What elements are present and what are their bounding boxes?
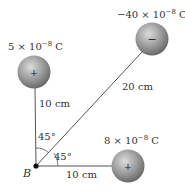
charge-label-q1: 5 × 10−8 C bbox=[8, 41, 63, 52]
diagram-canvas: + − + bbox=[0, 0, 185, 192]
point-b-dot bbox=[33, 163, 38, 168]
upper-angle-label: 45° bbox=[38, 132, 56, 142]
upper-angle-arc bbox=[36, 148, 49, 153]
plus-sign-icon: + bbox=[30, 67, 38, 78]
diagonal-line bbox=[36, 52, 142, 166]
horizontal-distance-label: 10 cm bbox=[66, 170, 97, 180]
point-b-label: B bbox=[23, 168, 31, 179]
charge-label-q2: −40 × 10−8 C bbox=[117, 9, 185, 20]
vertical-line bbox=[35, 88, 36, 166]
diagonal-distance-label: 20 cm bbox=[122, 82, 153, 92]
vertical-distance-label: 10 cm bbox=[39, 99, 70, 109]
charge-label-q3: 8 × 10−8 C bbox=[104, 135, 159, 146]
minus-sign-icon: − bbox=[147, 33, 156, 46]
lower-angle-label: 45° bbox=[54, 152, 72, 162]
plus-sign-icon: + bbox=[124, 161, 132, 172]
